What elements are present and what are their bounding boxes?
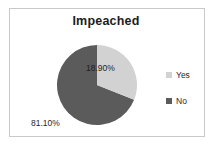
pie-plot-area [52,40,142,130]
legend-item-yes: Yes [166,68,206,82]
chart-title: Impeached [20,14,192,28]
legend-swatch-no-icon [166,98,172,104]
pie-slice-label-yes: 18.90% [86,63,115,73]
legend-label-no: No [176,96,187,106]
legend-swatch-yes-icon [166,72,172,78]
legend-label-yes: Yes [176,70,190,80]
pie-slice-label-no: 81.10% [31,118,60,128]
pie-chart-figure: Impeached 18.90% 81.10% Yes No [0,0,220,152]
pie-svg [52,40,142,130]
chart-legend: Yes No [166,68,206,120]
legend-item-no: No [166,94,206,108]
